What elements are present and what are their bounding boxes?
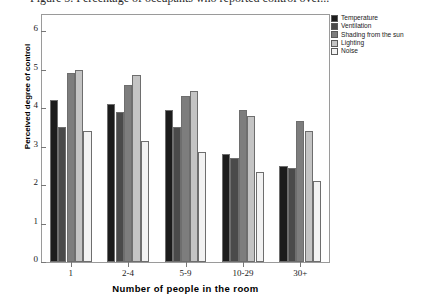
legend-item: Shading from the sun <box>331 31 423 39</box>
y-axis-title: Perceived degree of control <box>23 27 32 167</box>
legend-swatch-icon <box>331 23 338 30</box>
y-axis-tick-label: 4 <box>34 101 39 110</box>
y-axis-tick-label: 5 <box>34 63 39 72</box>
chart-bar <box>50 100 58 262</box>
chart-bar <box>165 110 173 262</box>
legend-item: Noise <box>331 48 423 56</box>
chart-bar <box>141 141 149 262</box>
x-axis-tick <box>300 262 301 267</box>
legend-item-label: Temperature <box>341 15 378 22</box>
chart-bar <box>313 181 321 262</box>
chart-bar <box>181 96 189 262</box>
chart-bar <box>116 112 124 262</box>
chart-bar <box>279 166 287 262</box>
chart-bar <box>198 152 206 262</box>
y-axis-tick-label: 3 <box>34 140 39 149</box>
x-axis-tick-label: 5-9 <box>180 268 192 278</box>
chart-plot-area <box>42 31 329 262</box>
x-axis-tick <box>71 262 72 267</box>
x-axis-tick <box>186 262 187 267</box>
chart-bar <box>296 121 304 262</box>
x-axis-title: Number of people in the room <box>41 283 330 294</box>
x-axis-tick-label: 1 <box>68 268 73 278</box>
chart-bar <box>67 73 75 262</box>
chart-bar <box>288 168 296 262</box>
legend-item: Temperature <box>331 14 423 22</box>
figure-caption: Figure 5. Percentage of occupants who re… <box>30 0 330 5</box>
chart-bar <box>124 85 132 262</box>
chart-bar <box>173 127 181 262</box>
x-axis-tick-label: 30+ <box>293 268 307 278</box>
chart-bar <box>256 172 264 262</box>
chart-bar <box>230 158 238 262</box>
legend-item: Lighting <box>331 39 423 47</box>
legend-item-label: Noise <box>341 48 358 55</box>
legend-item-label: Shading from the sun <box>341 32 404 39</box>
chart-bar <box>83 131 91 262</box>
legend-item-label: Lighting <box>341 40 364 47</box>
chart-bar <box>305 131 313 262</box>
chart-bar <box>222 154 230 262</box>
chart-bar <box>247 116 255 262</box>
x-axis-tick-label: 10-29 <box>232 268 253 278</box>
legend-swatch-icon <box>331 31 338 38</box>
chart-legend: TemperatureVentilationShading from the s… <box>331 14 423 56</box>
x-axis-tick <box>243 262 244 267</box>
chart-bar <box>190 91 198 262</box>
legend-item: Ventilation <box>331 22 423 30</box>
chart-bar <box>75 70 83 263</box>
y-axis-tick-label: 2 <box>34 178 39 187</box>
chart-bar <box>58 127 66 262</box>
legend-swatch-icon <box>331 15 338 22</box>
legend-swatch-icon <box>331 48 338 55</box>
y-axis-tick-label: 1 <box>34 217 39 226</box>
legend-swatch-icon <box>331 40 338 47</box>
y-axis-tick-label: 6 <box>34 24 39 33</box>
chart-bar <box>107 104 115 262</box>
x-axis-tick-label: 2-4 <box>122 268 134 278</box>
x-axis: 12-45-910-2930+ <box>42 262 329 272</box>
chart-bar <box>132 75 140 262</box>
y-axis-tick-label: 0 <box>34 255 39 264</box>
chart-bar <box>239 110 247 262</box>
x-axis-tick <box>128 262 129 267</box>
legend-item-label: Ventilation <box>341 23 371 30</box>
